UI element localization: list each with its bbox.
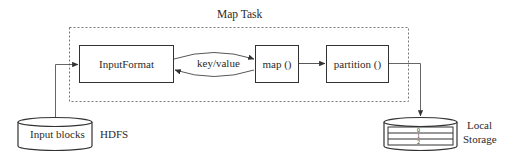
key-value-label: key/value: [197, 57, 240, 69]
map-task-label: Map Task: [217, 8, 262, 20]
map-node: map (): [255, 45, 299, 83]
local-storage-cylinder: [384, 118, 457, 151]
input-blocks-label: Input blocks: [30, 128, 85, 140]
diagram-canvas: [0, 0, 507, 166]
hdfs-label: HDFS: [100, 128, 128, 140]
input-to-inputformat-arrow: [56, 65, 79, 118]
map-to-inputformat-arrow: [175, 70, 254, 77]
local-label: Local: [467, 119, 492, 131]
partition-to-storage-arrow: [388, 64, 421, 117]
inputformat-node: InputFormat: [79, 45, 174, 83]
partition-2-label: 2: [417, 139, 420, 145]
storage-label: Storage: [463, 133, 497, 145]
partition-node: partition (): [326, 45, 389, 83]
